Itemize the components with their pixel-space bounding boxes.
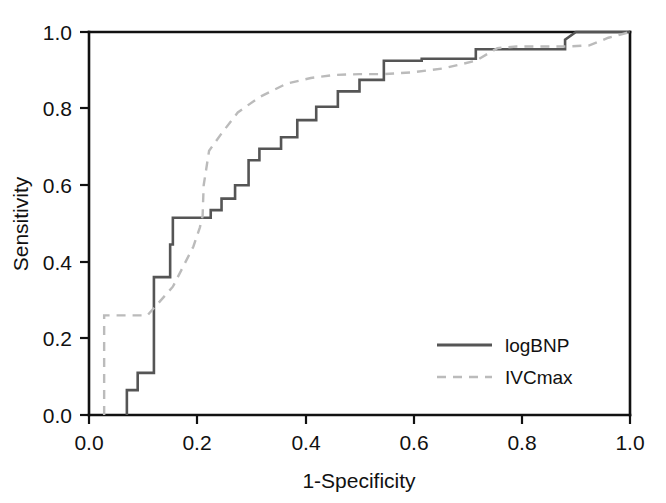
x-axis-title: 1-Specificity (302, 469, 416, 492)
y-tick-marks (80, 32, 89, 415)
x-tick-label: 0.6 (399, 431, 428, 454)
roc-curve-logbnp (127, 32, 630, 415)
y-tick-label: 0.2 (43, 327, 72, 350)
x-tick-label: 0.8 (507, 431, 536, 454)
roc-plot-svg: 1.0 0.8 0.6 0.4 0.2 0.0 0.0 0.2 0.4 0.6 … (0, 0, 666, 503)
x-tick-label: 0.2 (182, 431, 211, 454)
roc-curve-ivcmax (104, 32, 630, 415)
y-axis-title: Sensitivity (9, 176, 32, 271)
y-tick-label: 0.0 (43, 404, 72, 427)
roc-curves-group (104, 32, 630, 415)
x-tick-label: 1.0 (615, 431, 644, 454)
y-tick-label: 0.4 (43, 251, 73, 274)
x-tick-labels: 0.0 0.2 0.4 0.6 0.8 1.0 (74, 431, 644, 454)
roc-curve-figure: 1.0 0.8 0.6 0.4 0.2 0.0 0.0 0.2 0.4 0.6 … (0, 0, 666, 503)
y-tick-label: 0.8 (43, 97, 72, 120)
y-tick-label: 1.0 (43, 21, 72, 44)
x-tick-marks (89, 415, 630, 424)
y-tick-label: 0.6 (43, 174, 72, 197)
x-tick-label: 0.0 (74, 431, 103, 454)
y-tick-labels: 1.0 0.8 0.6 0.4 0.2 0.0 (43, 21, 73, 427)
x-tick-label: 0.4 (291, 431, 321, 454)
legend-label-logbnp: logBNP (505, 335, 569, 356)
legend-label-ivcmax: IVCmax (505, 367, 573, 388)
legend: logBNP IVCmax (437, 335, 573, 388)
